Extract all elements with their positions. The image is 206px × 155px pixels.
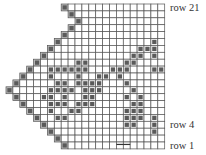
label-row-4: row 4: [170, 119, 194, 130]
filet-chart-grid: [0, 0, 206, 155]
label-row-1: row 1: [170, 140, 194, 151]
label-row-21: row 21: [170, 2, 199, 13]
